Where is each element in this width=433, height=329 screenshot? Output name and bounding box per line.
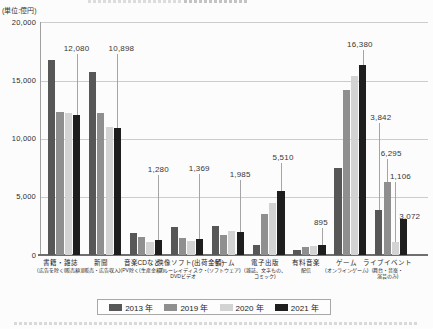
- x-category-label-main: ライブイベント: [361, 259, 414, 267]
- data-label-leader-line: [240, 180, 241, 232]
- bar-s2-c5: [269, 203, 276, 255]
- bar-s2-c6: [310, 246, 317, 255]
- data-label: 895: [314, 218, 328, 227]
- x-category-label-sub: 演芸のみ): [361, 273, 414, 279]
- legend-label: 2021 年: [291, 302, 319, 313]
- data-label-leader-line: [77, 54, 78, 115]
- y-tick-label: 15,000: [0, 76, 36, 85]
- data-label-leader-line: [395, 182, 396, 243]
- x-category-label: ライブイベント(舞台・音楽・演芸のみ): [361, 259, 414, 280]
- bar-s0-c1: [89, 72, 96, 255]
- gridline-15000: [40, 81, 428, 82]
- bar-s2-c4: [228, 231, 235, 255]
- data-label-leader-line: [387, 159, 388, 182]
- legend-item: 2021 年: [275, 302, 319, 313]
- bar-s3-c2: [155, 240, 162, 255]
- bar-s3-c1: [114, 128, 121, 255]
- data-label: 1,369: [189, 164, 210, 173]
- data-label: 16,380: [347, 40, 373, 49]
- bar-s2-c8: [392, 242, 399, 255]
- bar-s2-c7: [351, 76, 358, 255]
- bar-chart-figure: (単位:億円) 2013 年2019 年2020 年2021 年 20,0001…: [0, 0, 433, 329]
- legend-label: 2020 年: [236, 302, 264, 313]
- bar-s0-c7: [334, 168, 341, 255]
- bar-s1-c0: [56, 112, 63, 255]
- legend-label: 2013 年: [125, 302, 153, 313]
- legend-item: 2019 年: [164, 302, 208, 313]
- data-label: 1,280: [148, 165, 169, 174]
- bar-s3-c6: [318, 245, 325, 255]
- legend-label: 2019 年: [180, 302, 208, 313]
- x-category-label-sub: コミック): [239, 273, 292, 279]
- bar-s2-c3: [187, 241, 194, 255]
- bar-s1-c1: [97, 113, 104, 255]
- cropped-title-fragment: [88, 0, 182, 3]
- bar-s1-c8: [384, 182, 391, 255]
- bar-s2-c1: [106, 127, 113, 255]
- bar-s0-c4: [212, 226, 219, 255]
- bar-s2-c0: [65, 113, 72, 255]
- cropped-title-fragment: [184, 0, 248, 3]
- legend-swatch-icon: [220, 304, 233, 311]
- data-label-leader-line: [379, 123, 380, 211]
- data-label-leader-line: [322, 228, 323, 245]
- bar-s0-c0: [48, 60, 55, 255]
- legend-swatch-icon: [109, 304, 122, 311]
- unit-label: (単位:億円): [2, 5, 37, 15]
- gridline-20000: [40, 22, 428, 23]
- bar-s3-c0: [73, 115, 80, 255]
- bar-s1-c3: [179, 238, 186, 255]
- bar-s3-c3: [196, 239, 203, 255]
- legend-swatch-icon: [164, 304, 177, 311]
- bar-s1-c2: [138, 237, 145, 255]
- cropped-caption-fragment: [14, 322, 418, 325]
- data-label: 5,510: [273, 153, 294, 162]
- y-tick-label: 20,000: [0, 18, 36, 27]
- bar-s3-c5: [277, 191, 284, 255]
- bar-s3-c4: [237, 232, 244, 255]
- legend-item: 2013 年: [109, 302, 153, 313]
- data-label-leader-line: [363, 50, 364, 65]
- data-label-leader-line: [281, 163, 282, 191]
- legend-item: 2020 年: [220, 302, 264, 313]
- data-label: 10,898: [109, 44, 135, 53]
- bar-s1-c4: [220, 235, 227, 255]
- data-label: 1,106: [390, 172, 411, 181]
- data-label-leader-line: [158, 175, 159, 241]
- y-tick-label: 0: [0, 251, 36, 260]
- bar-s0-c2: [130, 233, 137, 255]
- bar-s1-c6: [302, 247, 309, 255]
- y-tick-label: 10,000: [0, 134, 36, 143]
- bar-s3-c7: [359, 65, 366, 255]
- legend-swatch-icon: [275, 304, 288, 311]
- data-label-leader-line: [117, 54, 118, 129]
- legend: 2013 年2019 年2020 年2021 年: [97, 299, 331, 315]
- data-label: 12,080: [64, 44, 90, 53]
- data-label: 1,985: [230, 170, 251, 179]
- data-label: 6,295: [381, 149, 402, 158]
- data-label: 3,842: [370, 113, 391, 122]
- bar-s0-c5: [253, 245, 260, 255]
- bar-s0-c6: [293, 250, 300, 255]
- bar-s2-c2: [146, 242, 153, 255]
- data-label: 3,072: [399, 212, 420, 221]
- x-category-label-sub: DVDビデオ: [157, 273, 210, 279]
- bar-s3-c8: [400, 219, 407, 255]
- bar-s0-c8: [375, 210, 382, 255]
- y-tick-label: 5,000: [0, 192, 36, 201]
- bar-s0-c3: [171, 227, 178, 255]
- bar-s1-c7: [343, 90, 350, 255]
- y-axis-line: [40, 22, 41, 255]
- bar-s1-c5: [261, 214, 268, 255]
- data-label-leader-line: [199, 174, 200, 240]
